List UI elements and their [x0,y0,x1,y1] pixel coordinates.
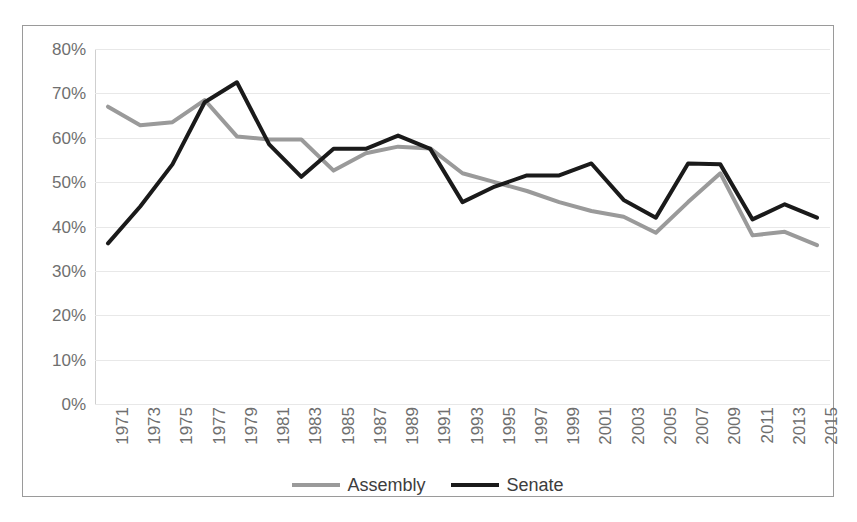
x-axis-tick-label: 1979 [243,407,260,445]
series-lines [95,49,830,404]
x-axis-tick-label: 2005 [662,407,679,445]
y-axis-tick-label: 60% [52,129,86,146]
x-axis-tick-label: 1991 [436,407,453,445]
x-axis-tick-label: 1989 [404,407,421,445]
series-line-assembly [108,100,817,245]
x-axis-tick-label: 1997 [533,407,550,445]
x-axis-tick-label: 1983 [307,407,324,445]
y-axis-tick-label: 70% [52,85,86,102]
x-axis-tick-label: 1999 [565,407,582,445]
x-axis-tick-label: 1987 [372,407,389,445]
y-axis-tick-label: 30% [52,262,86,279]
y-axis-tick-label: 40% [52,218,86,235]
legend-label: Senate [506,476,563,494]
x-axis-tick-label: 1975 [178,407,195,445]
x-axis-tick-label: 1995 [501,407,518,445]
x-axis-tick-label: 2015 [823,407,840,445]
y-axis-tick-label: 50% [52,174,86,191]
x-axis-tick-label: 1985 [340,407,357,445]
x-axis-tick-label: 1993 [469,407,486,445]
x-axis-tick-label: 2009 [726,407,743,445]
x-axis-tick-label: 2011 [759,407,776,444]
legend-label: Assembly [347,476,425,494]
x-axis-tick-label: 2003 [630,407,647,445]
x-axis-tick-label: 2007 [694,407,711,445]
chart-legend: AssemblySenate [23,471,833,499]
plot-area: 80%70%60%50%40%30%20%10%0% [95,49,830,404]
legend-item-senate[interactable]: Senate [451,476,563,494]
x-axis-tick-label: 1977 [211,407,228,445]
chart-container: 80%70%60%50%40%30%20%10%0% 1971197319751… [22,25,834,497]
x-axis-tick-labels: 1971197319751977197919811983198519871989… [95,407,830,479]
gridline [95,404,830,405]
y-axis-tick-label: 10% [52,351,86,368]
series-line-senate [108,82,817,243]
x-axis-tick-label: 1973 [146,407,163,445]
y-axis-tick-label: 0% [61,396,86,413]
y-axis-tick-label: 80% [52,41,86,58]
x-axis-tick-label: 2013 [791,407,808,445]
x-axis-tick-label: 2001 [597,407,614,445]
legend-item-assembly[interactable]: Assembly [292,476,425,494]
x-axis-tick-label: 1981 [275,407,292,445]
y-axis-tick-label: 20% [52,307,86,324]
x-axis-tick-label: 1971 [114,407,131,445]
legend-swatch-assembly [292,483,340,487]
legend-swatch-senate [451,483,499,487]
